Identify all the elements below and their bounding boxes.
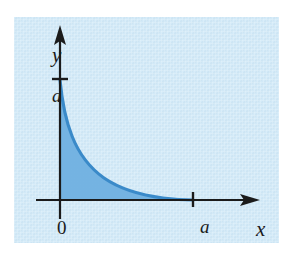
figure-root: y x a a 0 xyxy=(0,0,293,255)
y-axis-tick-label-a: a xyxy=(52,86,62,105)
plot-panel: y x a a 0 xyxy=(14,17,279,243)
shaded-region-under-curve xyxy=(60,80,193,200)
x-axis-tick-label-a: a xyxy=(200,217,210,236)
y-axis-label: y xyxy=(52,45,61,66)
origin-label: 0 xyxy=(57,218,67,237)
x-axis-label: x xyxy=(256,219,265,240)
